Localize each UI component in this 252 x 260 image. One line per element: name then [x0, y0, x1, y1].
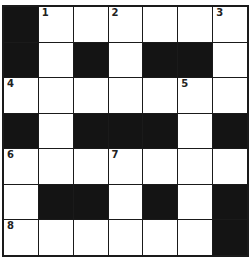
answer-cell[interactable] [178, 7, 212, 42]
block-cell [39, 185, 73, 220]
block-cell [4, 43, 38, 78]
answer-cell[interactable] [178, 149, 212, 184]
answer-cell[interactable] [178, 114, 212, 149]
answer-cell[interactable]: 3 [213, 7, 247, 42]
block-cell [213, 220, 247, 255]
crossword-grid: 12345678 [2, 5, 249, 257]
answer-cell[interactable] [4, 185, 38, 220]
clue-number: 7 [112, 150, 119, 160]
answer-cell[interactable]: 5 [178, 78, 212, 113]
clue-number: 3 [216, 8, 223, 18]
answer-cell[interactable]: 1 [39, 7, 73, 42]
answer-cell[interactable] [74, 78, 108, 113]
answer-cell[interactable]: 6 [4, 149, 38, 184]
clue-number: 8 [7, 221, 14, 231]
answer-cell[interactable] [178, 185, 212, 220]
clue-number: 5 [181, 79, 188, 89]
answer-cell[interactable] [109, 43, 143, 78]
clue-number: 4 [7, 79, 14, 89]
answer-cell[interactable] [143, 149, 177, 184]
answer-cell[interactable] [178, 220, 212, 255]
block-cell [178, 43, 212, 78]
block-cell [74, 43, 108, 78]
answer-cell[interactable] [213, 149, 247, 184]
block-cell [213, 114, 247, 149]
block-cell [74, 114, 108, 149]
answer-cell[interactable]: 7 [109, 149, 143, 184]
block-cell [4, 7, 38, 42]
answer-cell[interactable] [143, 78, 177, 113]
block-cell [143, 43, 177, 78]
answer-cell[interactable] [74, 220, 108, 255]
answer-cell[interactable] [74, 149, 108, 184]
answer-cell[interactable]: 2 [109, 7, 143, 42]
answer-cell[interactable] [109, 78, 143, 113]
answer-cell[interactable] [39, 220, 73, 255]
clue-number: 6 [7, 150, 14, 160]
answer-cell[interactable] [39, 43, 73, 78]
answer-cell[interactable] [213, 43, 247, 78]
clue-number: 2 [112, 8, 119, 18]
answer-cell[interactable] [109, 220, 143, 255]
answer-cell[interactable] [109, 185, 143, 220]
answer-cell[interactable] [143, 7, 177, 42]
answer-cell[interactable]: 4 [4, 78, 38, 113]
block-cell [143, 185, 177, 220]
answer-cell[interactable] [39, 149, 73, 184]
block-cell [109, 114, 143, 149]
answer-cell[interactable] [39, 78, 73, 113]
answer-cell[interactable] [213, 78, 247, 113]
block-cell [4, 114, 38, 149]
block-cell [74, 185, 108, 220]
answer-cell[interactable] [143, 220, 177, 255]
answer-cell[interactable] [39, 114, 73, 149]
answer-cell[interactable]: 8 [4, 220, 38, 255]
answer-cell[interactable] [74, 7, 108, 42]
block-cell [143, 114, 177, 149]
clue-number: 1 [42, 8, 49, 18]
block-cell [213, 185, 247, 220]
